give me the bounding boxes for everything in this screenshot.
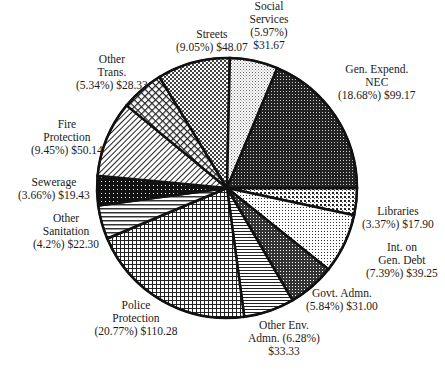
slice-label-sewerage: Sewerage(3.66%) $19.43 (18, 176, 90, 202)
slice-label-line: (5.34%) $28.33 (76, 79, 148, 92)
slice-label-line: $31.67 (250, 39, 289, 52)
slice-label-line: Trans. (76, 66, 148, 79)
slice-label-line: Other (33, 212, 99, 225)
slice-label-line: (5.84%) $31.00 (306, 300, 378, 313)
slice-label-line: Int. on (366, 241, 438, 254)
slice-label-line: Other Env. (248, 319, 320, 332)
slice-label-line: Protection (95, 312, 178, 325)
slice-label-line: Govt. Admn. (306, 287, 378, 300)
pie-slices (97, 58, 357, 318)
slice-label-line: (9.45%) $50.14 (31, 144, 103, 157)
slice-label-other-trans: OtherTrans.(5.34%) $28.33 (76, 53, 148, 92)
slice-label-line: Social (250, 0, 289, 13)
slice-label-line: Gen. Expend. (338, 63, 416, 76)
slice-label-line: (7.39%) $39.25 (366, 267, 438, 280)
slice-label-line: Protection (31, 131, 103, 144)
slice-label-line: Services (250, 13, 289, 26)
slice-label-line: Police (95, 299, 178, 312)
slice-label-line: Libraries (362, 205, 434, 218)
slice-label-police: PoliceProtection(20.77%) $110.28 (95, 299, 178, 338)
slice-label-line: Sanitation (33, 225, 99, 238)
slice-label-other-sanitation: OtherSanitation(4.2%) $22.30 (33, 212, 99, 251)
slice-label-line: Other (76, 53, 148, 66)
slice-label-line: (18.68%) $99.17 (338, 89, 416, 102)
slice-label-line: (3.66%) $19.43 (18, 189, 90, 202)
slice-label-line: Gen. Debt (366, 254, 438, 267)
slice-label-libraries: Libraries(3.37%) $17.90 (362, 205, 434, 231)
slice-label-line: (3.37%) $17.90 (362, 218, 434, 231)
slice-label-line: (20.77%) $110.28 (95, 325, 178, 338)
slice-label-line: Admn. (6.28%) (248, 332, 320, 345)
slice-label-streets: Streets(9.05%) $48.07 (176, 28, 248, 54)
slice-label-line: NEC (338, 76, 416, 89)
slice-label-int-gen-debt: Int. onGen. Debt(7.39%) $39.25 (366, 241, 438, 280)
slice-label-line: (9.05%) $48.07 (176, 41, 248, 54)
slice-label-govt-admn: Govt. Admn.(5.84%) $31.00 (306, 287, 378, 313)
slice-label-social-services: SocialServices(5.97%)$31.67 (250, 0, 289, 52)
slice-label-line: Streets (176, 28, 248, 41)
slice-label-line: Sewerage (18, 176, 90, 189)
slice-label-line: Fire (31, 118, 103, 131)
slice-label-line: $33.33 (248, 345, 320, 358)
slice-label-line: (5.97%) (250, 26, 289, 39)
slice-label-other-env-admn: Other Env.Admn. (6.28%)$33.33 (248, 319, 320, 358)
slice-label-fire: FireProtection(9.45%) $50.14 (31, 118, 103, 157)
slice-label-line: (4.2%) $22.30 (33, 238, 99, 251)
slice-label-gen-expend-nec: Gen. Expend.NEC(18.68%) $99.17 (338, 63, 416, 102)
